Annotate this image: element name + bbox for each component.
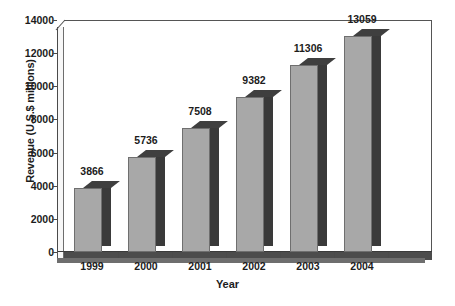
y-axis-tick-mark [52,186,57,187]
bar-side-face [264,90,273,246]
x-axis-tick-mark [64,252,65,258]
bar-value-label: 9382 [224,74,284,86]
bar-front-face [290,65,318,252]
bar-value-label: 5736 [116,134,176,146]
y-axis-tick-label: 12000 [12,47,54,59]
bar-2002: 9382 [236,0,274,252]
y-axis-tick-label: 10000 [12,80,54,92]
y-axis-tick-mark [52,153,57,154]
x-axis-tick-label: 2001 [170,260,230,272]
x-axis-tick-label: 2003 [278,260,338,272]
bar-front-face [236,97,264,252]
x-axis-tick-mark [280,252,281,258]
x-axis-tick-label: 1999 [62,260,122,272]
y-axis-tick-mark [52,119,57,120]
y-axis-tick-mark [52,86,57,87]
bar-2000: 5736 [128,0,166,252]
y-axis-tick-label: 4000 [12,180,54,192]
y-axis-tick-label: 6000 [12,147,54,159]
bar-front-face [128,157,156,252]
bar-value-label: 11306 [278,42,338,54]
bar-side-face [210,121,219,246]
x-axis-tick-label: 2000 [116,260,176,272]
bar-side-face [372,29,381,246]
bar-chart: Revenue (U.S.$ millions) Year 0200040006… [0,0,455,306]
axis-vertical-line [57,27,58,252]
x-axis-tick-mark [226,252,227,258]
x-axis-tick-mark [172,252,173,258]
y-axis-tick-mark [52,20,57,21]
y-axis-tick-label: 8000 [12,113,54,125]
bar-value-label: 3866 [62,165,122,177]
bar-front-face [344,36,372,252]
y-axis-tick-mark [52,219,57,220]
bar-top-face [182,121,219,128]
x-axis-tick-label: 2002 [224,260,284,272]
y-axis-tick-label: 14000 [12,14,54,26]
bar-value-label: 13059 [332,13,392,25]
bar-top-face [236,90,273,97]
y-axis-tick-mark [52,252,57,253]
bar-2003: 11306 [290,0,328,252]
bar-side-face [102,181,111,246]
bar-top-face [344,29,381,36]
bar-value-label: 7508 [170,105,230,117]
bar-side-face [318,58,327,246]
bar-top-face [290,58,327,65]
y-axis-tick-label: 2000 [12,213,54,225]
bar-1999: 3866 [74,0,112,252]
x-axis-title: Year [0,278,455,290]
x-axis-tick-mark [334,252,335,258]
bar-side-face [156,150,165,246]
bar-front-face [182,128,210,252]
x-axis-tick-mark [388,252,389,258]
y-axis-tick-label: 0 [12,246,54,258]
bar-2001: 7508 [182,0,220,252]
bar-top-face [128,150,165,157]
bar-top-face [74,181,111,188]
x-axis-tick-label: 2004 [332,260,392,272]
y-axis-tick-mark [52,53,57,54]
bar-2004: 13059 [344,0,382,252]
bar-front-face [74,188,102,252]
x-axis-tick-mark [118,252,119,258]
